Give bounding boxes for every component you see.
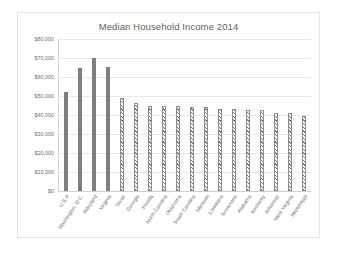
bar <box>176 106 181 192</box>
bar-series <box>59 39 311 191</box>
chart-title: Median Household Income 2014 <box>18 21 319 32</box>
bar-slot <box>73 39 87 191</box>
bar-slot <box>255 39 269 191</box>
bar-slot <box>227 39 241 191</box>
x-label-slot: Tennessee <box>227 193 241 239</box>
bar-slot <box>59 39 73 191</box>
x-label-slot: Georgia <box>129 193 143 239</box>
y-axis-tick-label: $60,000 <box>35 74 55 80</box>
plot-area: $80,000$70,000$60,000$50,000$40,000$30,0… <box>58 39 311 191</box>
x-label-slot: Kentucky <box>255 193 269 239</box>
y-axis-tick-label: $80,000 <box>35 36 55 42</box>
bar-slot <box>143 39 157 191</box>
bar <box>134 103 139 191</box>
x-axis-tick-label: Virginia <box>98 194 112 211</box>
bar <box>148 106 153 191</box>
bar-slot <box>171 39 185 191</box>
bar <box>246 110 251 191</box>
bar <box>274 113 279 191</box>
x-axis-tick-label: Texas <box>114 194 126 208</box>
bar <box>64 92 69 191</box>
bar <box>120 98 125 191</box>
x-label-slot: Maryland <box>87 193 101 239</box>
bar-slot <box>241 39 255 191</box>
bar-slot <box>213 39 227 191</box>
y-axis-tick-label: $50,000 <box>35 93 55 99</box>
bar-slot <box>297 39 311 191</box>
x-label-slot: Washington, D.C. <box>73 193 87 239</box>
bar-slot <box>157 39 171 191</box>
bar <box>190 107 195 191</box>
bar <box>218 109 223 191</box>
y-axis-tick-label: $0 <box>48 188 54 194</box>
bar <box>92 58 97 191</box>
x-label-slot: Missouri <box>199 193 213 239</box>
bar <box>204 107 209 191</box>
bar <box>106 67 111 191</box>
bar <box>302 116 307 191</box>
x-axis-tick-label: U.S.A <box>58 194 70 208</box>
x-label-slot: Texas <box>115 193 129 239</box>
bar-slot <box>87 39 101 191</box>
x-label-slot: Alabama <box>241 193 255 239</box>
bar-slot <box>115 39 129 191</box>
bar <box>162 106 167 192</box>
bar-slot <box>129 39 143 191</box>
bar <box>288 113 293 191</box>
x-label-slot: South Carolina <box>185 193 199 239</box>
x-label-slot: Mississippi <box>297 193 311 239</box>
y-axis-tick-label: $30,000 <box>35 131 55 137</box>
y-axis-tick-label: $20,000 <box>35 150 55 156</box>
chart-container: Median Household Income 2014 $80,000$70,… <box>17 12 320 238</box>
bar-slot <box>185 39 199 191</box>
bar-slot <box>199 39 213 191</box>
y-axis-tick-label: $10,000 <box>35 169 55 175</box>
bar <box>260 110 265 191</box>
y-axis-tick-label: $40,000 <box>35 112 55 118</box>
y-axis-tick-label: $70,000 <box>35 55 55 61</box>
bar-slot <box>283 39 297 191</box>
x-label-slot: Virginia <box>101 193 115 239</box>
bar-slot <box>269 39 283 191</box>
x-axis-labels: U.S.AWashington, D.C.MarylandVirginiaTex… <box>59 193 311 239</box>
bar <box>78 68 83 192</box>
bar-slot <box>101 39 115 191</box>
gridline: $0 <box>58 191 311 192</box>
bar <box>232 109 237 191</box>
